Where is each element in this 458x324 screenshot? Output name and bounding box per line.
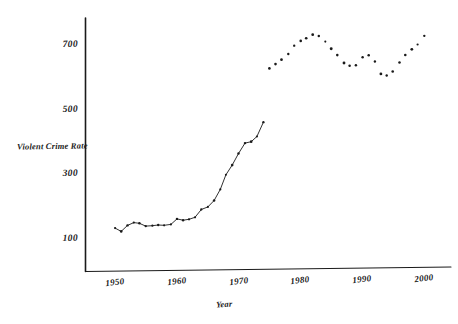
y-tick-label-300: 300 <box>52 168 78 179</box>
series-scatter-markers <box>268 33 425 76</box>
y-tick-label-100: 100 <box>52 233 78 244</box>
y-tick-label-500: 500 <box>52 103 78 114</box>
series-connected-markers <box>114 121 265 233</box>
y-axis-title: Violent Crime Rate <box>17 140 88 151</box>
y-tick-label-700: 700 <box>52 39 78 50</box>
series-connected-line <box>115 122 263 231</box>
x-axis-spine <box>86 267 452 272</box>
x-axis-title: Year <box>216 299 233 310</box>
chart-figure: 100300500700 195019601970198019902000 Vi… <box>0 0 458 324</box>
